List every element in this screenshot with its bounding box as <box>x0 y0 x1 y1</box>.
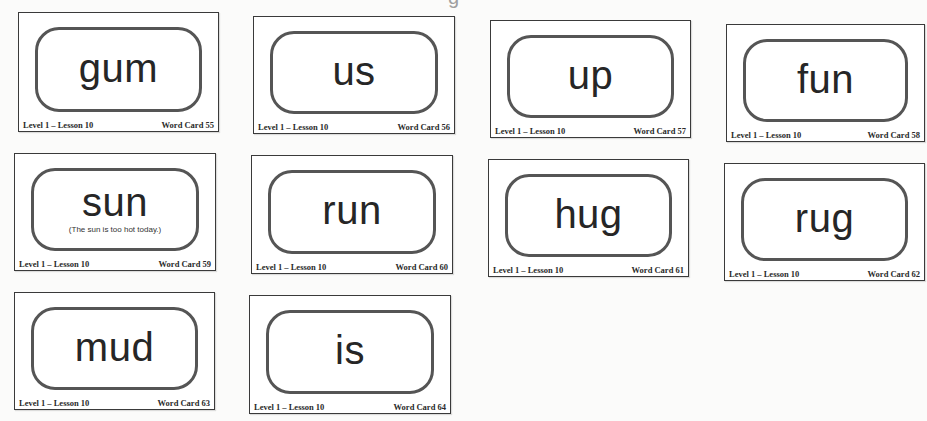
card-number-label: Word Card 63 <box>158 399 210 408</box>
card-number-label: Word Card 60 <box>396 263 448 272</box>
page-title-fragment: g <box>448 0 459 9</box>
card-word: sun <box>82 182 148 222</box>
level-label: Level 1 – Lesson 10 <box>19 399 89 408</box>
word-frame: up <box>507 35 674 118</box>
card-number-label: Word Card 58 <box>868 131 920 140</box>
word-card: us Level 1 – Lesson 10 Word Card 56 <box>253 16 455 134</box>
level-label: Level 1 – Lesson 10 <box>256 263 326 272</box>
card-word: is <box>335 330 365 370</box>
card-word: rug <box>795 198 854 238</box>
level-label: Level 1 – Lesson 10 <box>254 403 324 412</box>
word-card: mud Level 1 – Lesson 10 Word Card 63 <box>14 292 215 410</box>
card-footer: Level 1 – Lesson 10 Word Card 58 <box>731 131 920 140</box>
word-card: gum Level 1 – Lesson 10 Word Card 55 <box>18 12 219 132</box>
level-label: Level 1 – Lesson 10 <box>731 131 801 140</box>
word-frame: gum <box>35 27 202 112</box>
card-footer: Level 1 – Lesson 10 Word Card 59 <box>19 260 211 269</box>
card-number-label: Word Card 55 <box>162 121 214 130</box>
word-frame: mud <box>31 307 198 390</box>
word-card: is Level 1 – Lesson 10 Word Card 64 <box>249 295 451 414</box>
card-number-label: Word Card 64 <box>394 403 446 412</box>
card-number-label: Word Card 56 <box>398 123 450 132</box>
word-frame: sun (The sun is too hot today.) <box>31 168 199 251</box>
card-word: mud <box>75 327 154 367</box>
word-card: rug Level 1 – Lesson 10 Word Card 62 <box>724 163 925 281</box>
word-card: run Level 1 – Lesson 10 Word Card 60 <box>251 155 453 274</box>
card-number-label: Word Card 62 <box>868 270 920 279</box>
example-sentence: (The sun is too hot today.) <box>69 225 161 234</box>
word-card: hug Level 1 – Lesson 10 Word Card 61 <box>488 159 689 277</box>
word-card: up Level 1 – Lesson 10 Word Card 57 <box>490 20 691 138</box>
card-footer: Level 1 – Lesson 10 Word Card 61 <box>493 266 684 275</box>
card-footer: Level 1 – Lesson 10 Word Card 62 <box>729 270 920 279</box>
card-word: up <box>568 55 614 95</box>
card-footer: Level 1 – Lesson 10 Word Card 63 <box>19 399 210 408</box>
card-number-label: Word Card 57 <box>634 127 686 136</box>
card-footer: Level 1 – Lesson 10 Word Card 57 <box>495 127 686 136</box>
word-card: sun (The sun is too hot today.) Level 1 … <box>14 153 216 271</box>
level-label: Level 1 – Lesson 10 <box>23 121 93 130</box>
card-word: run <box>322 190 381 230</box>
level-label: Level 1 – Lesson 10 <box>19 260 89 269</box>
card-footer: Level 1 – Lesson 10 Word Card 60 <box>256 263 448 272</box>
word-card: fun Level 1 – Lesson 10 Word Card 58 <box>726 24 925 142</box>
card-number-label: Word Card 59 <box>159 260 211 269</box>
level-label: Level 1 – Lesson 10 <box>495 127 565 136</box>
word-frame: is <box>266 310 434 394</box>
word-frame: fun <box>743 39 908 122</box>
level-label: Level 1 – Lesson 10 <box>258 123 328 132</box>
word-frame: us <box>270 31 438 114</box>
card-footer: Level 1 – Lesson 10 Word Card 56 <box>258 123 450 132</box>
level-label: Level 1 – Lesson 10 <box>729 270 799 279</box>
card-word: us <box>332 51 375 91</box>
word-frame: hug <box>505 174 672 257</box>
card-footer: Level 1 – Lesson 10 Word Card 55 <box>23 121 214 130</box>
card-footer: Level 1 – Lesson 10 Word Card 64 <box>254 403 446 412</box>
card-word: fun <box>797 59 854 99</box>
level-label: Level 1 – Lesson 10 <box>493 266 563 275</box>
card-word: gum <box>79 48 158 88</box>
word-frame: rug <box>741 178 908 261</box>
card-number-label: Word Card 61 <box>632 266 684 275</box>
card-word: hug <box>554 194 622 234</box>
word-frame: run <box>268 170 436 254</box>
